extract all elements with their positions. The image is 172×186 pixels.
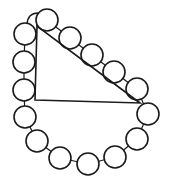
bead-circle bbox=[14, 23, 36, 45]
bead-circle bbox=[77, 153, 99, 175]
bead-circle bbox=[13, 51, 35, 73]
bead-circle bbox=[137, 103, 159, 125]
bead-circle bbox=[26, 130, 48, 152]
bead-circle bbox=[13, 79, 35, 101]
bead-circle bbox=[14, 106, 36, 128]
triangle-bead-necklace-diagram bbox=[0, 0, 172, 186]
right-triangle bbox=[35, 26, 140, 103]
bead-circle bbox=[103, 61, 125, 83]
bead-circle bbox=[126, 128, 148, 150]
bead-circle bbox=[81, 44, 103, 66]
triangle-outline bbox=[35, 26, 140, 103]
bead-circle bbox=[49, 147, 71, 169]
bead-circle bbox=[126, 78, 148, 100]
bead-circle bbox=[104, 146, 126, 168]
